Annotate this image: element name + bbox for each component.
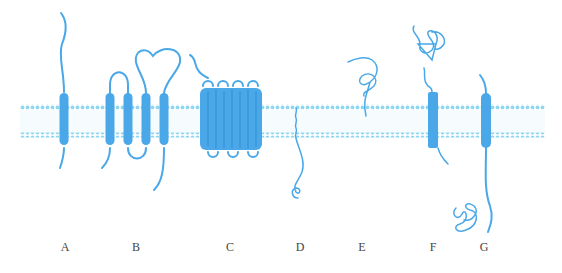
label-g: G [480, 240, 489, 255]
membrane-inner-leaflet [20, 133, 545, 138]
label-c: C [226, 240, 234, 255]
label-b: B [132, 240, 140, 255]
protein-f [413, 26, 448, 164]
label-f: F [430, 240, 437, 255]
label-e: E [358, 240, 365, 255]
label-a: A [61, 240, 70, 255]
protein-g [454, 75, 492, 232]
protein-c [190, 55, 262, 157]
protein-a [60, 13, 69, 168]
label-d: D [296, 240, 305, 255]
membrane-outer-leaflet [20, 105, 545, 110]
lipid-bilayer [20, 105, 545, 138]
membrane-protein-diagram [0, 0, 562, 273]
